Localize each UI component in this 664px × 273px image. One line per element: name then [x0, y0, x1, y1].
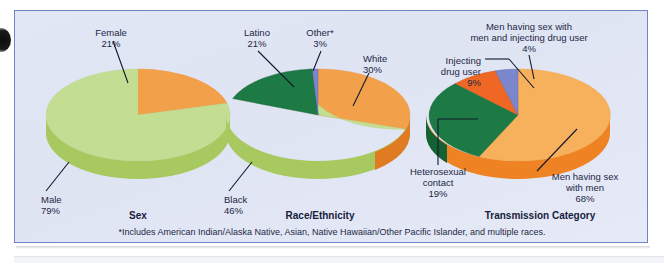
label-heterosexual: Heterosexual contact 19%: [392, 166, 484, 199]
page-bottom-strip: [14, 256, 664, 263]
label-msm-idu-line2: men and injecting drug user: [439, 32, 619, 43]
label-latino-name: Latino: [220, 27, 294, 38]
label-hetero-value: 19%: [392, 188, 484, 199]
leader-white: [351, 73, 373, 109]
label-female-value: 21%: [71, 38, 151, 49]
label-idu-line2: drug user: [401, 66, 481, 77]
panel-shadow: [16, 246, 650, 249]
leader-black: [227, 162, 255, 194]
label-msm-value: 68%: [535, 193, 635, 204]
figure-stage: Female 21% Male 79% Sex: [0, 0, 664, 273]
leader-male: [44, 162, 72, 194]
label-msm-idu-line1: Men having sex with: [439, 21, 619, 32]
label-msm-idu: Men having sex with men and injecting dr…: [439, 21, 619, 54]
label-idu-line1: Injecting: [401, 55, 481, 66]
label-msm-idu-value: 4%: [439, 43, 619, 54]
label-black-name: Black: [224, 194, 294, 205]
figure-panel: Female 21% Male 79% Sex: [14, 10, 648, 243]
label-female-name: Female: [71, 27, 151, 38]
label-msm: Men having sex with men 68%: [535, 171, 635, 204]
label-other-value: 3%: [287, 38, 353, 49]
label-msm-line2: with men: [535, 182, 635, 193]
page-edge-mark-icon: [0, 28, 11, 52]
chart-title-transmission: Transmission Category: [450, 210, 630, 221]
label-hetero-line2: contact: [392, 177, 484, 188]
label-latino: Latino 21%: [220, 27, 294, 49]
label-female: Female 21%: [71, 27, 151, 49]
label-latino-value: 21%: [220, 38, 294, 49]
chart-title-race: Race/Ethnicity: [255, 210, 385, 221]
chart-title-sex: Sex: [88, 210, 188, 221]
figure-footnote: *Includes American Indian/Alaska Native,…: [15, 227, 649, 237]
leader-heterosexual: [433, 109, 481, 167]
leader-msm: [533, 129, 581, 173]
leader-other: [309, 51, 325, 73]
leader-latino: [258, 51, 298, 91]
label-other: Other* 3%: [287, 27, 353, 49]
pie-charts-container: Female 21% Male 79% Sex: [15, 11, 649, 244]
leader-injecting-drug-user: [485, 58, 537, 90]
label-other-name: Other*: [287, 27, 353, 38]
label-idu-value: 9%: [401, 77, 481, 88]
label-male-name: Male: [41, 194, 121, 205]
label-injecting-drug-user: Injecting drug user 9%: [401, 55, 481, 88]
label-hetero-line1: Heterosexual: [392, 166, 484, 177]
